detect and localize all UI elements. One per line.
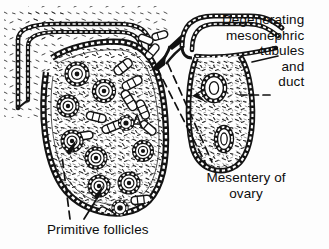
- primitive-follicles-label: Primitive follicles: [47, 222, 149, 238]
- follicle: [87, 149, 106, 168]
- follicle: [120, 117, 133, 130]
- follicle: [59, 97, 78, 116]
- follicle: [134, 142, 152, 160]
- label-line-ovary: ovary: [186, 186, 306, 202]
- label-line-and: and: [222, 59, 304, 75]
- label-line-duct: duct: [222, 74, 304, 90]
- label-line-mesonephric: mesonephric: [222, 28, 304, 44]
- label-line-tubules: tubules: [222, 43, 304, 59]
- label-line-mesentery-of: Mesentery of: [186, 170, 306, 186]
- follicle: [113, 201, 127, 215]
- follicle: [94, 81, 114, 101]
- follicle: [67, 64, 88, 85]
- label-line-degenerating: Degenerating: [222, 12, 304, 28]
- follicle: [120, 174, 139, 193]
- mesonephric-tubule-ring: [216, 127, 232, 151]
- mesentery-of-ovary-label: Mesentery of ovary: [186, 170, 306, 201]
- degenerating-mesonephric-tubules-and-duct-label: Degenerating mesonephric tubules and duc…: [222, 12, 304, 90]
